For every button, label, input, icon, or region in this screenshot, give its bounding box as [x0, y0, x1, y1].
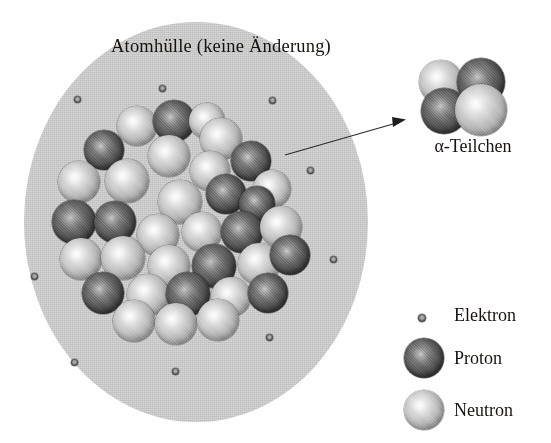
legend-label-proton: Proton: [454, 348, 502, 369]
alpha-particle: [419, 58, 511, 138]
nucleus-neutron: [105, 159, 149, 203]
alpha-neutron: [455, 84, 507, 136]
electron-dot: [71, 359, 78, 366]
neutron-icon: [404, 390, 444, 430]
nucleus-neutron: [113, 300, 155, 342]
electron-dot: [266, 334, 273, 341]
nucleus-neutron: [58, 161, 100, 203]
legend-label-neutron: Neutron: [454, 400, 513, 421]
alpha-decay-diagram: Atomhülle (keine Änderung) α-Teilchen El…: [0, 0, 551, 443]
electron-dot: [330, 256, 337, 263]
legend: Elektron Proton Neutron: [398, 305, 551, 440]
electron-dot: [172, 368, 179, 375]
proton-icon: [404, 338, 444, 378]
electron-dot: [31, 273, 38, 280]
nucleus-proton: [248, 273, 288, 313]
page-title: Atomhülle (keine Änderung): [86, 36, 356, 57]
legend-item-neutron: Neutron: [398, 390, 551, 432]
nucleus-proton: [270, 235, 310, 275]
electron-icon: [418, 314, 426, 322]
nucleus-neutron: [148, 135, 190, 177]
legend-label-elektron: Elektron: [454, 305, 516, 326]
legend-item-elektron: Elektron: [398, 305, 551, 331]
nucleus-neutron: [197, 299, 239, 341]
nucleus-proton: [52, 200, 96, 244]
electron-dot: [269, 97, 276, 104]
electron-dot: [307, 167, 314, 174]
alpha-particle-label: α-Teilchen: [403, 136, 543, 157]
legend-item-proton: Proton: [398, 338, 551, 380]
nucleus-neutron: [117, 106, 157, 146]
nucleus-neutron: [155, 303, 197, 345]
electron-dot: [159, 85, 166, 92]
electron-dot: [74, 96, 81, 103]
